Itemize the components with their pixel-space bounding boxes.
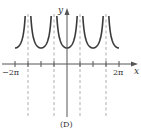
curve-branch [83, 16, 103, 48]
curve-branch [109, 16, 119, 48]
x-axis-label: x [134, 66, 139, 76]
figure-caption: (D) [60, 120, 73, 129]
tick-label-neg-2pi: −2π [2, 68, 19, 77]
y-axis-label: y [57, 5, 64, 15]
curve-branch [15, 16, 25, 48]
axes [2, 8, 138, 117]
secant-graph: x y −2π 2π (D) [0, 0, 141, 129]
tick-label-pos-2pi: 2π [113, 68, 123, 77]
curve-branch [31, 16, 51, 48]
y-axis-arrow-icon [65, 8, 70, 15]
